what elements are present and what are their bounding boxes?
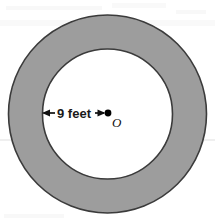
center-point <box>105 110 112 117</box>
annulus-diagram: 9 feet O <box>0 0 215 223</box>
center-point-label: O <box>112 115 122 130</box>
figure-canvas: 9 feet O <box>0 0 215 223</box>
radius-dimension-label: 9 feet <box>57 106 92 121</box>
